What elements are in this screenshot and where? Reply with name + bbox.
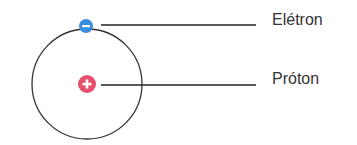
electron-icon xyxy=(79,19,93,33)
electron-label: Elétron xyxy=(272,12,323,28)
proton-label: Próton xyxy=(272,71,319,87)
proton-icon xyxy=(78,75,96,93)
